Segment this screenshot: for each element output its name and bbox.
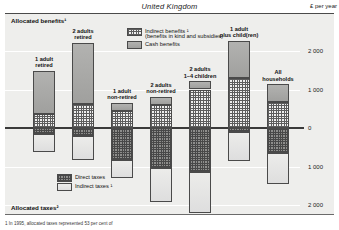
legend-label-indirect-taxes: Indirect taxes ¹ [75, 183, 112, 189]
chart-footnote: 1 In 1995, allocated taxes represented 5… [5, 221, 334, 230]
bar-segment [228, 41, 250, 78]
bar-category-label: 1 adult retired [22, 56, 66, 69]
bar-segment [228, 132, 250, 161]
bar-segment [150, 128, 172, 168]
bar-segment [150, 168, 172, 202]
legend-label-direct-taxes: Direct taxes [75, 174, 105, 180]
direct-taxes-swatch-icon [57, 174, 72, 182]
bar-segment [72, 104, 94, 128]
allocated-taxes-title: Allocated taxes² [11, 204, 58, 211]
bar-segment [267, 102, 289, 128]
y-tick-label: 0 [308, 125, 311, 131]
bottom-divider [5, 214, 334, 215]
bar-group [267, 14, 289, 214]
bar-segment [72, 128, 94, 136]
bar-segment [72, 136, 94, 160]
bar-segment [72, 43, 94, 104]
bar-category-label: 1 adult non-retired [100, 88, 144, 101]
y-tick-label: 1 000 [308, 164, 323, 170]
legend-label-indirect-benefits-line2: (benefits in kind and subsidies) [145, 33, 223, 39]
bar-segment [267, 128, 289, 153]
bar-segment [228, 78, 250, 128]
y-tick-label: 1 000 [308, 87, 323, 93]
bar-segment [267, 153, 289, 184]
bar-segment [189, 90, 211, 129]
bar-group [189, 14, 211, 214]
bar-segment [111, 111, 133, 128]
bar-segment [111, 103, 133, 111]
bar-group [228, 14, 250, 214]
bar-segment [111, 128, 133, 160]
bar-segment [33, 71, 55, 114]
chart-units-label: £ per year [310, 3, 337, 9]
bar-segment [189, 81, 211, 89]
bar-segment [33, 114, 55, 128]
bar-segment [150, 97, 172, 105]
allocated-benefits-title: Allocated benefits¹ [11, 17, 66, 24]
legend-label-cash-benefits: Cash benefits [145, 41, 180, 47]
bar-category-label: 2 adults non-retired [139, 82, 183, 95]
indirect-benefits-swatch-icon [127, 28, 142, 36]
bar-group [33, 14, 55, 214]
indirect-taxes-swatch-icon [57, 183, 72, 191]
chart-plot-area: 2 0001 00001 0002 000 1 adult retired2 a… [5, 14, 334, 214]
bar-segment [33, 134, 55, 152]
chart-country-title: United Kingdom [0, 2, 339, 11]
chart-page: United Kingdom £ per year 2 0001 00001 0… [0, 0, 339, 230]
y-tick-label: 2 000 [308, 48, 323, 54]
y-tick-label: 2 000 [308, 202, 323, 208]
bar-segment [267, 84, 289, 101]
bar-segment [189, 128, 211, 172]
bar-segment [150, 105, 172, 128]
cash-benefits-swatch-icon [127, 41, 142, 49]
bar-segment [189, 172, 211, 213]
bar-category-label: All households [256, 69, 300, 82]
bar-category-label: 2 adults retired [61, 28, 105, 41]
bar-segment [111, 160, 133, 178]
bar-category-label: 1 adult plus child(ren) [217, 26, 261, 39]
bar-category-label: 2 adults 1–4 children [178, 66, 222, 79]
